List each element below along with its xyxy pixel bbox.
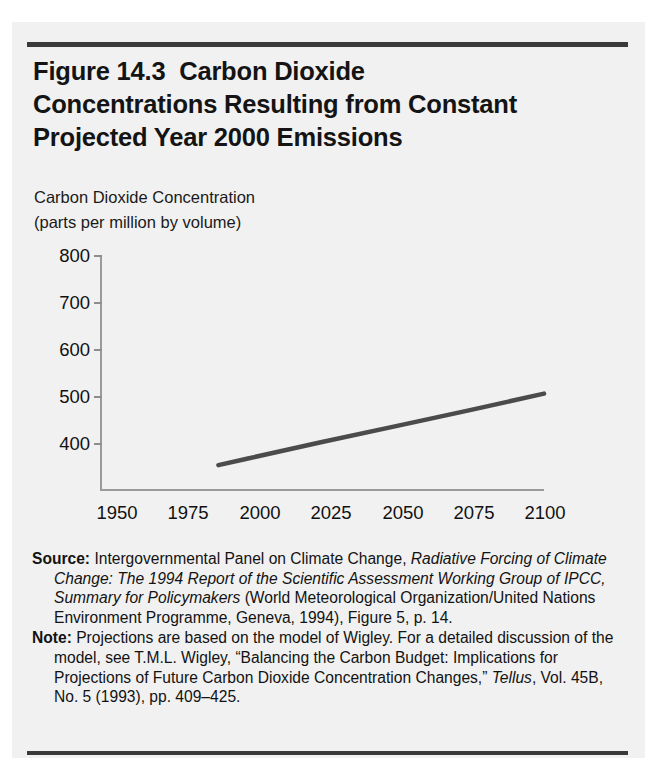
x-tick-label-1950: 1950 <box>82 502 152 524</box>
figure-panel: Figure 14.3 Carbon Dioxide Concentration… <box>0 0 655 766</box>
x-tick-label-2050: 2050 <box>368 502 438 524</box>
figure-rule-bottom <box>27 751 628 755</box>
source-label: Source: <box>32 550 90 567</box>
figure-title: Figure 14.3 Carbon Dioxide Concentration… <box>33 55 623 154</box>
page-margin-bottom <box>0 758 655 766</box>
source-text: Intergovernmental Panel on Climate Chang… <box>54 550 607 626</box>
x-tick-label-2025: 2025 <box>296 502 366 524</box>
figure-title-line-3: Projected Year 2000 Emissions <box>33 121 623 154</box>
x-tick-label-1975: 1975 <box>153 502 223 524</box>
note-label: Note: <box>32 629 72 646</box>
source-note: Source: Intergovernmental Panel on Clima… <box>32 549 626 627</box>
y-axis-caption-line-1: Carbon Dioxide Concentration <box>34 185 434 210</box>
figure-title-line-1: Figure 14.3 Carbon Dioxide <box>33 55 623 88</box>
figure-title-line-2: Concentrations Resulting from Constant <box>33 88 623 121</box>
y-axis-caption: Carbon Dioxide Concentration (parts per … <box>34 185 434 235</box>
page-margin-top <box>0 0 655 22</box>
figure-rule-top <box>27 42 628 47</box>
note-text: Projections are based on the model of Wi… <box>54 629 613 705</box>
chart-plot-area: 800 700 600 500 400 1950 1975 2000 2025 … <box>0 240 655 530</box>
note-note: Note: Projections are based on the model… <box>32 628 626 706</box>
series-line-co2 <box>0 240 655 530</box>
x-tick-label-2100: 2100 <box>510 502 580 524</box>
y-axis-caption-line-2: (parts per million by volume) <box>34 210 434 235</box>
figure-notes: Source: Intergovernmental Panel on Clima… <box>32 549 626 708</box>
x-tick-label-2000: 2000 <box>225 502 295 524</box>
x-tick-label-2075: 2075 <box>439 502 509 524</box>
